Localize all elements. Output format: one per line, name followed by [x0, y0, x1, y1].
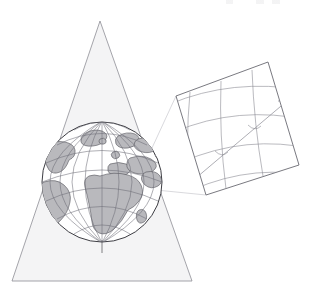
figure-root — [0, 0, 321, 298]
land-island-iceland — [99, 138, 106, 144]
map-panel-border — [176, 62, 299, 195]
track-angle-arc-1 — [183, 176, 197, 181]
projection-ray-upper — [152, 96, 176, 148]
projection-ray-lower — [156, 190, 206, 195]
conic-projection-diagram — [0, 0, 321, 298]
developed-conic-map — [170, 59, 320, 198]
